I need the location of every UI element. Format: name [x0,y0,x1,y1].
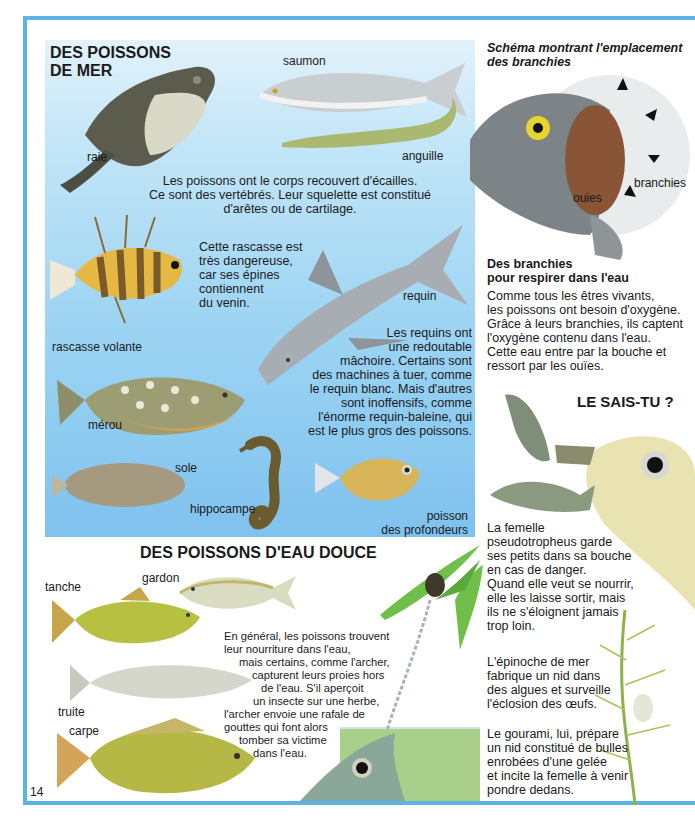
rascasse-line: très dangereuse, [199,254,303,268]
pseudotropheus-line: La femelle [487,521,634,535]
label-carpe: carpe [69,724,99,738]
rascasse-line: Cette rascasse est [199,240,303,254]
archer-line: gouttes qui font alors [224,721,390,734]
gills-line: Cette eau entre par la bouche et [487,345,683,359]
sea-fish-title: DES POISSONS DE MER [50,44,200,80]
fresh-fish-title: DES POISSONS D'EAU DOUCE [140,544,377,562]
did-you-know-title: LE SAIS-TU ? [577,393,674,411]
sea-intro-line: d'arêtes ou de cartilage. [125,202,455,216]
shark-line: le requin blanc. Mais d'autres [245,382,472,396]
gourami-line: pondre dedans. [487,783,628,797]
archer-line: capturent leurs proies hors [224,669,390,682]
gills-paragraph: Comme tous les êtres vivants, les poisso… [487,289,683,373]
archer-paragraph: En général, les poissons trouvent leur n… [224,630,390,760]
lionfish-illustration [45,215,195,325]
archer-line: tomber sa victime [224,734,390,747]
pseudotropheus-line: ses petits dans sa bouche [487,549,634,563]
rascasse-paragraph: Cette rascasse est très dangereuse, car … [199,240,303,310]
page-number: 14 [30,785,43,799]
gills-line: les poissons ont besoin d'oxygène. [487,303,683,317]
gills-line: ressort par les ouïes. [487,359,683,373]
archer-line: dans l'eau. [224,747,390,760]
sea-fish-title-line2: DE MER [50,62,200,80]
gills-subtitle: Des branchies pour respirer dans l'eau [487,257,695,285]
seahorse-illustration [240,435,290,535]
label-rascasse-volante: rascasse volante [52,340,142,354]
fish-head-gills-illustration [470,60,695,260]
rascasse-line: car ses épines [199,268,303,282]
sea-intro-paragraph: Les poissons ont le corps recouvert d'éc… [125,174,455,216]
gills-line: Grâce à leurs branchies, ils captent [487,317,683,331]
label-hippocampe: hippocampe [190,502,255,516]
roach-illustration [178,568,298,618]
rascasse-line: contiennent [199,282,303,296]
archer-line: l'archer envoie une rafale de [224,708,390,721]
epinoche-line: L'épinoche de mer [487,655,611,669]
gourami-line: enrobées d'une gelée [487,755,628,769]
shark-paragraph: Les requins ont une redoutable mâchoire.… [245,326,472,438]
label-ouies: ouies [573,191,602,205]
eel-illustration [280,95,460,155]
pseudotropheus-line: elle les laisse sortir, mais [487,591,634,605]
sole-illustration [50,460,190,510]
shark-line: Les requins ont [245,326,472,340]
label-branchies: branchies [634,176,686,190]
label-saumon: saumon [283,54,326,68]
shark-line: sont inoffensifs, comme [245,396,472,410]
gourami-line: un nid constitué de bulles [487,741,628,755]
archer-line: un insecte sur une herbe, [224,695,390,708]
label-tanche: tanche [45,580,81,594]
epinoche-line: l'éclosion des œufs. [487,697,611,711]
reed-insect-illustration [375,540,485,730]
pseudotropheus-line: Quand elle veut se nourrir, [487,577,634,591]
epinoche-paragraph: L'épinoche de mer fabrique un nid dans d… [487,655,611,711]
label-requin: requin [403,289,436,303]
label-poisson-profondeurs: poisson des profondeurs [380,509,468,537]
gourami-line: Le gourami, lui, prépare [487,727,628,741]
label-gardon: gardon [142,571,179,585]
epinoche-line: fabrique un nid dans [487,669,611,683]
sea-intro-line: Les poissons ont le corps recouvert d'éc… [125,174,455,188]
pseudotropheus-line: en cas de danger. [487,563,634,577]
gills-title-line2: des branchies [487,55,695,69]
pseudotropheus-line: ils ne s'éloignent jamais [487,605,634,619]
archer-line: leur nourriture dans l'eau, [224,643,390,656]
archer-line: mais certains, comme l'archer, [224,656,390,669]
rascasse-line: du venin. [199,296,303,310]
page-frame-left [23,16,27,805]
gills-diagram-title: Schéma montrant l'emplacement des branch… [487,41,695,69]
gills-title-line1: Schéma montrant l'emplacement [487,41,695,55]
pseudotropheus-line: trop loin. [487,619,634,633]
pseudotropheus-line: pseudotropheus garde [487,535,634,549]
pseudotropheus-paragraph: La femelle pseudotropheus garde ses peti… [487,521,634,633]
archer-line: En général, les poissons trouvent [224,630,390,643]
shark-line: l'énorme requin-baleine, qui [245,410,472,424]
label-anguille: anguille [402,149,443,163]
shark-line: est le plus gros des poissons. [245,424,472,438]
gills-subtitle-line1: Des branchies [487,257,695,271]
shark-line: des machines à tuer, comme [245,368,472,382]
gourami-line: et incite la femelle à venir [487,769,628,783]
deep-sea-fish-illustration [315,448,425,508]
archer-line: de l'eau. S'il aperçoit [224,682,390,695]
sea-intro-line: Ce sont des vertébrés. Leur squelette es… [125,188,455,202]
label-profondeurs-line1: poisson [380,509,468,523]
label-raie: raie [87,150,107,164]
shark-line: une redoutable [245,340,472,354]
label-profondeurs-line2: des profondeurs [380,523,468,537]
sea-fish-title-line1: DES POISSONS [50,44,200,62]
gills-line: Comme tous les êtres vivants, [487,289,683,303]
grouper-illustration [55,360,255,445]
gourami-paragraph: Le gourami, lui, prépare un nid constitu… [487,727,628,797]
label-merou: mérou [88,418,122,432]
page-frame-top [23,16,695,20]
gills-line: l'oxygène contenu dans l'eau. [487,331,683,345]
epinoche-line: des algues et surveille [487,683,611,697]
gills-subtitle-line2: pour respirer dans l'eau [487,271,695,285]
label-truite: truite [58,705,85,719]
label-sole: sole [175,461,197,475]
shark-line: mâchoire. Certains sont [245,354,472,368]
